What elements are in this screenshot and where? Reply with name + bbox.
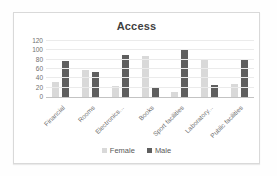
y-tick-100: 100: [14, 46, 43, 54]
y-tick-80: 80: [14, 56, 43, 64]
y-tick-40: 40: [14, 74, 43, 82]
gridline-60: [46, 68, 254, 69]
bar-female-1: [82, 70, 89, 97]
y-tick-120: 120: [14, 37, 43, 45]
chart-legend: FemaleMale: [14, 146, 259, 155]
legend-item-female: Female: [102, 146, 135, 155]
gridline-80: [46, 59, 254, 60]
plot-area: [46, 41, 254, 97]
legend-label-male: Male: [155, 146, 171, 155]
bar-female-0: [52, 82, 59, 97]
bar-male-4: [181, 50, 188, 97]
bar-male-0: [62, 61, 69, 97]
gridline-40: [46, 77, 254, 78]
x-axis-line: [46, 97, 254, 98]
y-tick-60: 60: [14, 65, 43, 73]
chart-frame: Access 020406080100120 FinancialRoomsEle…: [13, 12, 260, 164]
gridline-20: [46, 87, 254, 88]
y-axis-ticks: 020406080100120: [14, 41, 43, 97]
legend-label-female: Female: [110, 146, 135, 155]
legend-marker-female-icon: [102, 148, 107, 153]
gridline-120: [46, 40, 254, 41]
gridline-100: [46, 49, 254, 50]
legend-marker-male-icon: [147, 148, 152, 153]
bar-male-2: [122, 55, 129, 97]
page-background: Access 020406080100120 FinancialRoomsEle…: [0, 0, 277, 176]
bar-female-2: [112, 86, 119, 97]
bar-male-1: [92, 72, 99, 97]
bar-male-3: [152, 87, 159, 97]
chart-title: Access: [14, 20, 259, 32]
bar-male-6: [241, 60, 248, 97]
x-axis-labels: FinancialRoomsElectronics...BooksSport f…: [46, 101, 254, 143]
legend-item-male: Male: [147, 146, 171, 155]
y-tick-20: 20: [14, 84, 43, 92]
y-tick-0: 0: [14, 93, 43, 101]
